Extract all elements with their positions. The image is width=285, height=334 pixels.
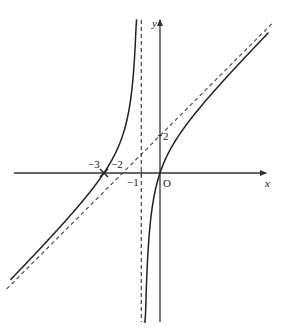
tick-label-neg3: −3 <box>88 158 100 170</box>
graph-figure: −3 −2 −1 2 O x y <box>0 0 285 334</box>
x-axis-label: x <box>264 177 270 189</box>
y-axis-label: y <box>151 17 157 29</box>
tick-label-neg1: −1 <box>127 176 139 188</box>
oblique-asymptote <box>7 23 273 289</box>
tick-label-neg2: −2 <box>111 158 123 170</box>
origin-label: O <box>163 177 171 189</box>
tick-label-y2: 2 <box>163 130 169 142</box>
curve-left-branch <box>10 20 137 280</box>
